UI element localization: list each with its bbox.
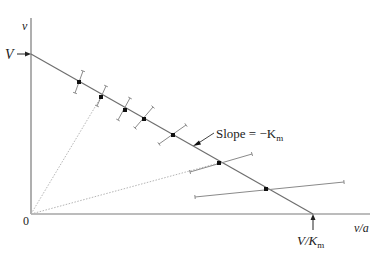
- x-intercept-label: V/Km: [297, 233, 324, 250]
- data-point: [142, 117, 146, 121]
- dotted-ray-2: [31, 163, 219, 214]
- data-point: [217, 161, 221, 165]
- eadie-hofstee-diagram: V v v/a 0 V/Km Slope = −Km: [0, 0, 388, 254]
- error-bar-cap: [251, 152, 252, 156]
- x-intercept-arrow-icon: [311, 214, 316, 230]
- dotted-ray-1: [31, 97, 101, 214]
- data-points: [73, 70, 344, 199]
- y-intercept-label: V: [5, 47, 15, 62]
- error-bar-cap: [73, 92, 77, 93]
- slope-label: Slope = −Km: [216, 126, 283, 143]
- data-point: [123, 108, 127, 112]
- data-point: [77, 80, 81, 84]
- error-bar-cap: [81, 70, 85, 71]
- slope-pointer-arrow-icon: [193, 133, 214, 146]
- data-point: [171, 133, 175, 137]
- origin-label: 0: [23, 214, 29, 228]
- x-axis-label: v/a: [354, 221, 369, 235]
- v-intercept-arrow-icon: [17, 52, 31, 57]
- data-point: [264, 187, 268, 191]
- data-point: [99, 95, 103, 99]
- y-axis-label: v: [22, 19, 28, 33]
- error-bar: [195, 182, 344, 197]
